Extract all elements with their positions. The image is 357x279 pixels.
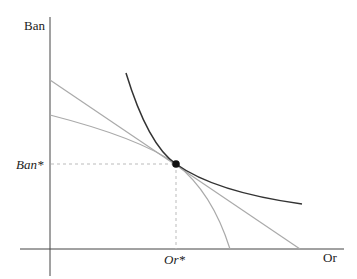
y-axis-label: Ban <box>24 18 45 33</box>
indifference-curve <box>126 73 302 204</box>
production-possibility-frontier <box>50 115 230 249</box>
economics-diagram: Ban Or Ban* Or* <box>0 0 357 279</box>
ban-star-label: Ban* <box>16 157 44 172</box>
x-axis-label: Or <box>323 250 337 265</box>
equilibrium-point <box>172 160 180 168</box>
or-star-label: Or* <box>164 252 185 267</box>
